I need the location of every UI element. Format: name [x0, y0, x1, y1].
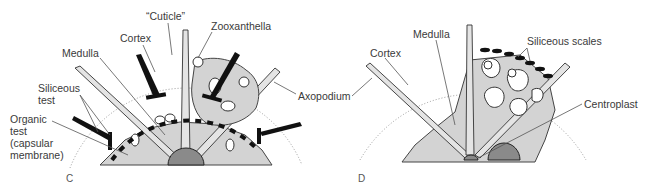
vacuole [484, 61, 492, 69]
panel-d: Cortex Medulla Siliceous scales Centropl… [352, 25, 638, 184]
label-organic-test-line4: membrane) [10, 149, 64, 161]
spine [136, 54, 160, 98]
leader-cuticle [168, 23, 172, 55]
vacuole [221, 101, 235, 111]
leader-siliceous-scales-a [518, 48, 527, 57]
leader-siliceous-scales-b [527, 48, 530, 61]
label-organic-test-line3: (capsular [10, 137, 54, 149]
siliceous-scale [504, 52, 514, 56]
leader-medulla [436, 40, 455, 125]
spine-base [257, 128, 261, 144]
spine [260, 122, 302, 136]
panel-label-c: C [66, 173, 73, 184]
label-cortex: Cortex [120, 32, 152, 44]
leader-axopodium [352, 78, 372, 96]
vacuole [532, 88, 543, 102]
siliceous-scale [543, 74, 553, 78]
label-siliceous-test-line2: test [38, 94, 55, 106]
siliceous-scale [535, 67, 545, 71]
zooxanthella-cell [193, 57, 203, 67]
leader-zooxanthella [198, 32, 212, 58]
panel-label-d: D [358, 173, 365, 184]
vacuole [508, 69, 516, 77]
label-cuticle: “Cuticle” [146, 10, 186, 22]
label-organic-test-line1: Organic [10, 113, 47, 125]
zooxanthella-cluster [192, 58, 259, 125]
radiolarian-diagram: “Cuticle” Cortex Zooxanthella Medulla Si… [0, 0, 648, 192]
axopodium-center [466, 25, 474, 155]
label-cortex: Cortex [370, 47, 402, 59]
label-siliceous-scales: Siliceous scales [527, 35, 602, 47]
medulla-cytoplasm [402, 55, 555, 162]
label-centroplast: Centroplast [584, 98, 638, 110]
label-organic-test-line2: test [10, 125, 27, 137]
panel-c: “Cuticle” Cortex Zooxanthella Medulla Si… [10, 10, 351, 184]
vacuole [510, 98, 527, 115]
axopodium-center [181, 30, 190, 158]
label-siliceous-test-line1: Siliceous [38, 82, 80, 94]
label-axopodium: Axopodium [298, 90, 351, 102]
zooxanthella-cell [239, 77, 249, 87]
siliceous-scale [515, 56, 525, 60]
siliceous-scale [480, 48, 490, 52]
siliceous-scale [492, 49, 502, 53]
leader-axopodium [274, 82, 296, 94]
label-medulla: Medulla [62, 47, 99, 59]
vacuole [226, 139, 234, 151]
label-zooxanthella: Zooxanthella [211, 20, 271, 32]
siliceous-scale [525, 61, 535, 65]
label-medulla: Medulla [413, 28, 450, 40]
